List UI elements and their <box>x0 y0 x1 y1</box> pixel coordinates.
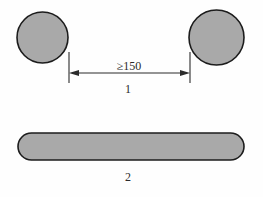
rounded-bar-elevation <box>18 133 244 160</box>
left-arrowhead-icon <box>69 70 79 76</box>
view-2-group: 2 <box>18 133 244 184</box>
right-arrowhead-icon <box>180 70 190 76</box>
view-1-group: ≥150 1 <box>17 10 244 96</box>
gap-dimension-text: ≥150 <box>117 59 142 73</box>
view-2-caption: 2 <box>125 170 131 184</box>
drawing-canvas: ≥150 1 2 <box>0 0 263 197</box>
view-1-caption: 1 <box>125 82 131 96</box>
right-circle-section <box>189 10 244 65</box>
technical-drawing-figure: ≥150 1 2 <box>0 0 263 197</box>
left-circle-section <box>17 12 68 63</box>
